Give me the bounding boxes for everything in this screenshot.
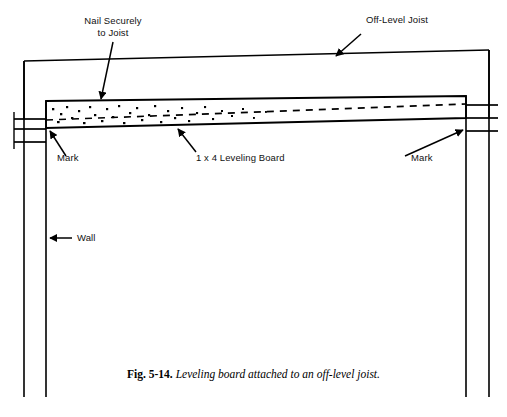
nail-securely-leader-arrow — [101, 42, 113, 99]
caption-description: Leveling board attached to an off-level … — [176, 368, 380, 380]
left-wall — [24, 61, 46, 397]
mark-right-label: Mark — [411, 152, 433, 164]
nail-stipple — [52, 105, 267, 124]
diagram-canvas — [0, 0, 507, 417]
figure-5-14: Nail Securely to Joist Off-Level Joist M… — [0, 0, 507, 417]
right-mark-lines — [466, 105, 498, 131]
caption-figure-number: Fig. 5-14. — [127, 368, 173, 380]
off-level-joist — [24, 50, 489, 119]
mark-left-label: Mark — [57, 152, 79, 164]
left-mark-lines — [14, 112, 46, 149]
figure-caption: Fig. 5-14. Leveling board attached to an… — [0, 368, 507, 380]
nail-securely-label: Nail Securely to Joist — [59, 15, 167, 38]
wall-label: Wall — [77, 232, 96, 244]
leveling-board-leader-arrow — [178, 129, 196, 152]
leader-lines — [50, 34, 463, 238]
off-level-joist-label: Off-Level Joist — [366, 14, 428, 26]
joist-top-edge — [24, 50, 489, 61]
right-wall — [466, 50, 489, 397]
joist-underside-dashed-line — [46, 104, 466, 120]
leveling-board-label: 1 x 4 Leveling Board — [196, 152, 285, 164]
leveling-board — [46, 96, 466, 128]
